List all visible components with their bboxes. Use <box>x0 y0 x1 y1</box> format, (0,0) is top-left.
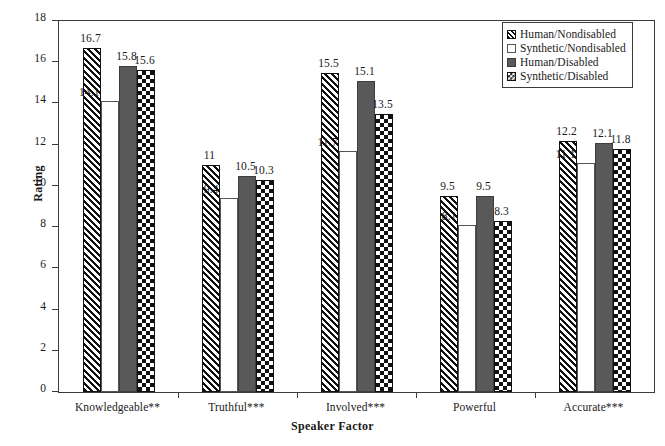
y-axis-tick-mark <box>52 350 58 351</box>
bar-value-label: 11.1 <box>550 149 577 161</box>
y-axis-tick-mark <box>52 144 58 145</box>
figure-container: Rating Speaker Factor Human/Nondisabled … <box>0 0 665 446</box>
bar-4-4 <box>494 221 512 392</box>
legend-label: Synthetic/Disabled <box>520 70 608 82</box>
legend-item-human-nondisabled: Human/Nondisabled <box>507 27 626 41</box>
x-axis-group-separator <box>416 392 417 398</box>
bar-value-label: 10.3 <box>247 165 281 177</box>
bar-2-4 <box>256 180 274 392</box>
bar-value-label: 16.7 <box>74 33 108 45</box>
chart-legend: Human/Nondisabled Synthetic/Nondisabled … <box>502 22 633 88</box>
y-axis-tick-mark <box>52 267 58 268</box>
y-axis-tick-label: 16 <box>34 53 46 65</box>
bar-value-label: 9.4 <box>193 184 220 196</box>
bar-value-label: 8.1 <box>431 211 458 223</box>
bar-3-4 <box>375 114 393 392</box>
y-axis-tick-mark <box>52 20 58 21</box>
y-axis-tick-label: 8 <box>40 218 46 230</box>
x-axis-group-separator <box>297 392 298 398</box>
bar-2-1 <box>202 165 220 392</box>
x-axis-category-label: Powerful <box>415 401 534 413</box>
legend-swatch-checkerboard-icon <box>507 72 516 81</box>
legend-swatch-solid-gray-icon <box>507 58 516 67</box>
legend-item-synthetic-disabled: Synthetic/Disabled <box>507 69 626 83</box>
legend-label: Synthetic/Nondisabled <box>520 42 626 54</box>
bar-4-2 <box>458 225 476 392</box>
legend-label: Human/Disabled <box>520 56 599 68</box>
bar-value-label: 8.3 <box>485 206 519 218</box>
bar-value-label: 15.5 <box>312 58 346 70</box>
legend-item-synthetic-nondisabled: Synthetic/Nondisabled <box>507 41 626 55</box>
y-axis-tick-label: 4 <box>40 301 46 313</box>
bar-value-label: 11.8 <box>604 134 638 146</box>
bar-value-label: 15.6 <box>128 55 162 67</box>
bar-value-label: 11 <box>193 150 227 162</box>
y-axis-tick-label: 2 <box>40 342 46 354</box>
y-axis-tick-label: 6 <box>40 259 46 271</box>
bar-value-label: 11.7 <box>312 137 339 149</box>
y-axis-tick-mark <box>52 309 58 310</box>
bar-1-3 <box>119 66 137 392</box>
bar-2-2 <box>220 198 238 392</box>
x-axis-category-label: Accurate*** <box>534 401 653 413</box>
x-axis-category-label: Knowledgeable** <box>58 401 177 413</box>
bar-5-1 <box>559 141 577 392</box>
y-axis-tick-mark <box>52 185 58 186</box>
bar-value-label: 14.1 <box>74 87 101 99</box>
bar-5-2 <box>577 163 595 392</box>
y-axis-tick-mark <box>52 61 58 62</box>
bar-5-4 <box>613 149 631 392</box>
legend-item-human-disabled: Human/Disabled <box>507 55 626 69</box>
legend-label: Human/Nondisabled <box>520 28 616 40</box>
bar-value-label: 9.5 <box>431 181 465 193</box>
y-axis-tick-label: 12 <box>34 136 46 148</box>
y-axis-tick-label: 14 <box>34 94 46 106</box>
bar-value-label: 15.1 <box>348 66 382 78</box>
bar-2-3 <box>238 176 256 392</box>
bar-1-4 <box>137 70 155 392</box>
bar-4-3 <box>476 196 494 392</box>
y-axis-tick-label: 10 <box>34 177 46 189</box>
x-axis-category-label: Truthful*** <box>177 401 296 413</box>
y-axis-tick-label: 0 <box>40 383 46 395</box>
legend-swatch-diagonal-hatch-icon <box>507 30 516 39</box>
x-axis-category-label: Involved*** <box>296 401 415 413</box>
bar-3-2 <box>339 151 357 392</box>
y-axis-tick-mark <box>52 102 58 103</box>
x-axis-group-separator <box>178 392 179 398</box>
bar-3-1 <box>321 73 339 392</box>
bar-value-label: 12.2 <box>550 126 584 138</box>
bar-5-3 <box>595 143 613 392</box>
y-axis-tick-mark <box>52 391 58 392</box>
y-axis-tick-mark <box>52 226 58 227</box>
y-axis-tick-label: 18 <box>34 12 46 24</box>
bar-1-1 <box>83 48 101 392</box>
x-axis-title: Speaker Factor <box>0 419 665 434</box>
bar-value-label: 9.5 <box>467 181 501 193</box>
legend-swatch-open-white-icon <box>507 44 516 53</box>
bar-4-1 <box>440 196 458 392</box>
bar-1-2 <box>101 101 119 392</box>
bar-value-label: 13.5 <box>366 99 400 111</box>
x-axis-group-separator <box>535 392 536 398</box>
bar-3-3 <box>357 81 375 392</box>
